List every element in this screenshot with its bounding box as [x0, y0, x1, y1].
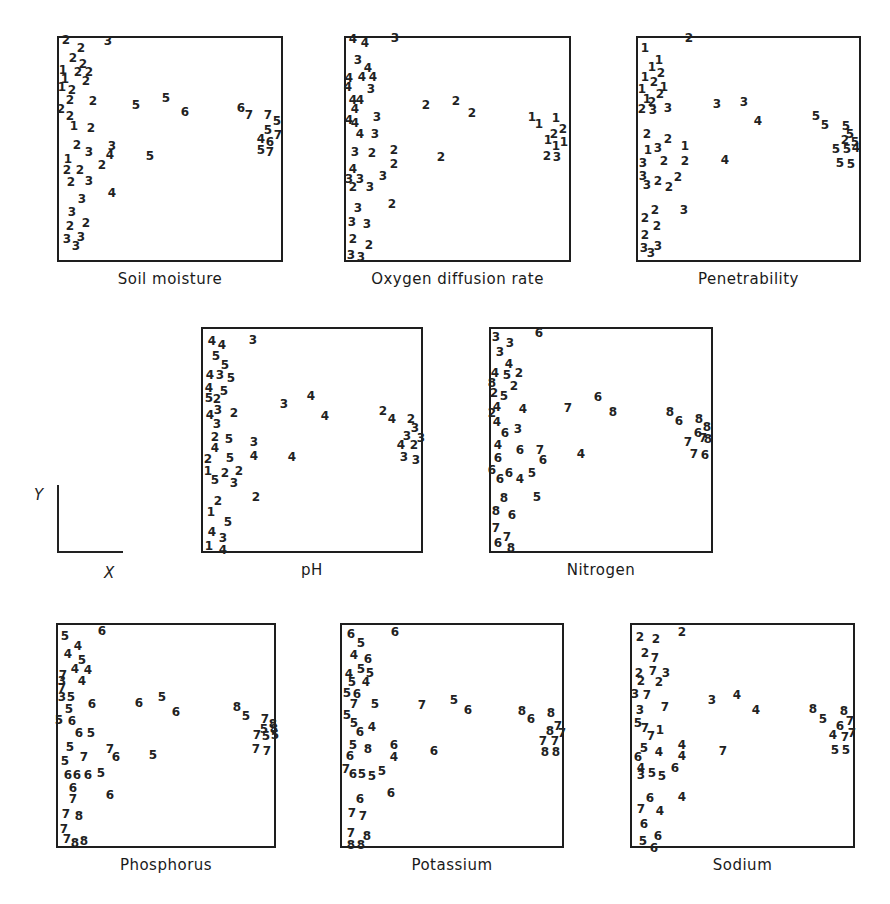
data-point: 2: [490, 387, 498, 399]
data-point: 5: [61, 630, 69, 642]
data-point: 3: [366, 181, 374, 193]
data-point: 5: [847, 158, 855, 170]
data-point: 6: [391, 626, 399, 638]
data-point: 6: [349, 768, 357, 780]
data-point: 2: [252, 491, 260, 503]
data-point: 2: [674, 171, 682, 183]
data-point: 1: [58, 81, 66, 93]
data-point: 6: [347, 628, 355, 640]
data-point: 3: [250, 436, 258, 448]
data-point: 8: [518, 705, 526, 717]
data-point: 5: [227, 372, 235, 384]
data-point: 2: [637, 675, 645, 687]
data-point: 6: [346, 750, 354, 762]
data-point: 4: [106, 149, 114, 161]
data-point: 4: [577, 448, 585, 460]
data-point: 6: [496, 473, 504, 485]
data-point: 5: [378, 765, 386, 777]
data-point: 6: [430, 745, 438, 757]
data-point: 2: [651, 204, 659, 216]
data-point: 3: [412, 454, 420, 466]
data-point: 3: [492, 331, 500, 343]
panel-title: Potassium: [340, 856, 564, 874]
data-point: 3: [104, 35, 112, 47]
plot-frame: [340, 623, 564, 848]
data-point: 6: [98, 625, 106, 637]
data-point: 5: [242, 710, 250, 722]
data-point: 4: [356, 128, 364, 140]
x-axis-label: X: [104, 564, 114, 582]
data-point: 2: [69, 52, 77, 64]
data-point: 2: [652, 633, 660, 645]
panel-potassium: 6654655454567575686878777885564568646765…: [340, 623, 564, 888]
data-point: 2: [678, 626, 686, 638]
data-point: 2: [82, 75, 90, 87]
panel-title: Soil moisture: [57, 270, 283, 288]
data-point: 7: [661, 701, 669, 713]
data-point: 5: [371, 698, 379, 710]
panel-oxygen-diffusion-rate: 4433444443444344432221112211123322224332…: [344, 36, 571, 302]
data-point: 3: [740, 96, 748, 108]
data-point: 7: [492, 522, 500, 534]
data-point: 2: [98, 159, 106, 171]
data-point: 6: [535, 327, 543, 339]
data-point: 3: [367, 83, 375, 95]
data-point: 4: [288, 451, 296, 463]
data-point: 7: [274, 129, 282, 141]
data-point: 2: [559, 123, 567, 135]
data-point: 2: [543, 150, 551, 162]
data-point: 4: [656, 805, 664, 817]
panel-title: Phosphorus: [56, 856, 276, 874]
data-point: 5: [450, 694, 458, 706]
data-point: 7: [80, 751, 88, 763]
data-point: 5: [132, 99, 140, 111]
data-point: 3: [348, 216, 356, 228]
data-point: 4: [361, 37, 369, 49]
data-point: 7: [647, 730, 655, 742]
data-point: 2: [388, 198, 396, 210]
data-point: 7: [418, 699, 426, 711]
data-point: 8: [609, 406, 617, 418]
data-point: 7: [263, 745, 271, 757]
data-point: 5: [149, 749, 157, 761]
data-point: 3: [636, 704, 644, 716]
data-point: 3: [514, 423, 522, 435]
data-point: 5: [819, 713, 827, 725]
data-point: 3: [391, 32, 399, 44]
data-point: 5: [273, 115, 281, 127]
data-point: 6: [650, 842, 658, 854]
data-point: 2: [468, 107, 476, 119]
data-point: 4: [390, 751, 398, 763]
data-point: 6: [594, 391, 602, 403]
data-point: 8: [541, 746, 549, 758]
data-point: 3: [363, 218, 371, 230]
data-point: 8: [547, 707, 555, 719]
data-point: 8: [364, 743, 372, 755]
data-point: 3: [354, 54, 362, 66]
data-point: 6: [88, 698, 96, 710]
panel-sodium: 2222727322373734485876477555771564447435…: [630, 623, 855, 888]
data-point: 5: [271, 729, 279, 741]
data-point: 8: [357, 839, 365, 851]
data-point: 6: [516, 444, 524, 456]
data-point: 3: [347, 249, 355, 261]
data-point: 2: [57, 103, 65, 115]
panel-ph: 4435543545524332344242333423325342544152…: [201, 327, 423, 593]
data-point: 8: [552, 746, 560, 758]
data-point: 5: [831, 744, 839, 756]
data-point: 4: [733, 689, 741, 701]
data-point: 2: [349, 181, 357, 193]
data-point: 6: [494, 537, 502, 549]
data-point: 2: [643, 128, 651, 140]
data-point: 2: [515, 367, 523, 379]
data-point: 3: [400, 451, 408, 463]
data-point: 5: [66, 741, 74, 753]
data-point: 3: [637, 769, 645, 781]
data-point: 4: [349, 33, 357, 45]
data-point: 4: [108, 187, 116, 199]
data-point: 1: [644, 144, 652, 156]
data-point: 4: [358, 71, 366, 83]
data-point: 2: [641, 647, 649, 659]
data-point: 5: [146, 150, 154, 162]
data-point: 8: [500, 492, 508, 504]
